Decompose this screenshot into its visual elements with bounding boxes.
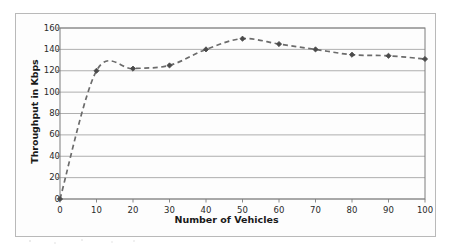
data-point-marker bbox=[240, 36, 245, 41]
chart-area: 020406080100120140160 010203040506070809… bbox=[16, 14, 437, 238]
gridlines bbox=[57, 28, 426, 203]
data-point-marker bbox=[57, 196, 62, 201]
data-point-marker bbox=[313, 47, 318, 52]
data-point-marker bbox=[167, 63, 172, 68]
x-axis-title: Number of Vehicles bbox=[16, 214, 437, 225]
data-point-marker bbox=[386, 53, 391, 58]
series-line-throughput bbox=[60, 39, 425, 199]
y-axis-title: Throughput in Kbps bbox=[29, 32, 40, 192]
figure-frame: 020406080100120140160 010203040506070809… bbox=[15, 13, 436, 237]
plot-svg bbox=[16, 14, 437, 238]
data-point-marker bbox=[203, 47, 208, 52]
scan-speckle-artifact bbox=[24, 239, 144, 245]
data-point-marker bbox=[276, 41, 281, 46]
data-point-marker bbox=[349, 52, 354, 57]
data-point-marker bbox=[422, 56, 427, 61]
